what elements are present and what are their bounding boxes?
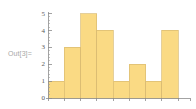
bar (48, 81, 64, 98)
y-axis-tick-label: 4 (42, 27, 46, 35)
bar (113, 81, 129, 98)
y-axis-tick-label: 1 (42, 77, 46, 85)
y-axis-tick-label: 0 (42, 94, 46, 102)
y-axis-tick-label: 3 (42, 43, 46, 51)
bar (129, 64, 145, 98)
y-axis-tick-label: 2 (42, 60, 46, 68)
bar (146, 81, 162, 98)
chart-canvas: 012345 (0, 0, 196, 109)
notebook-output-cell: Out[3]= 012345 (0, 0, 196, 109)
bar (97, 30, 113, 98)
bar (162, 30, 178, 98)
y-axis-tick-label: 5 (42, 10, 46, 18)
bar-chart: 012345 (0, 0, 196, 109)
bar (81, 14, 97, 99)
bar (64, 47, 80, 98)
